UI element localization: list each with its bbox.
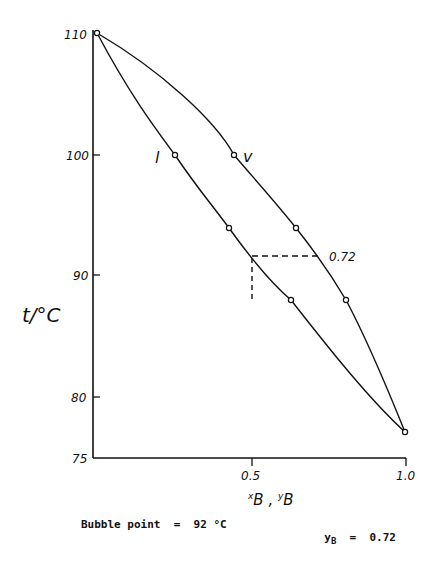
x-axis-b1: B [253,491,263,509]
annotation-072: 0.72 [329,250,356,264]
phase-diagram: 110 100 90 80 75 0.5 1.0 t/°C xB , yB l … [0,0,439,563]
marker-vapour-94 [293,225,298,230]
marker-start [94,30,99,35]
marker-vapour-100 [231,152,236,157]
marker-liquid-88 [288,297,293,302]
x-axis-title: xB , yB [247,491,294,509]
x-tick-label-10: 1.0 [396,469,415,483]
marker-liquid-100 [172,152,177,157]
data-markers [94,30,407,434]
caption-bubble-point: Bubble point = 92 °C [81,518,227,531]
x-axis-b2: B [283,491,293,509]
caption-yb-label: y [324,531,331,544]
y-axis-title: t/°C [22,303,61,327]
liquid-curve [97,33,405,432]
caption-yb: yB = 0.72 [311,518,396,546]
x-tick-label-05: 0.5 [241,469,260,483]
y-tick-label-75: 75 [72,452,87,466]
liquid-curve-label: l [155,148,160,167]
y-tick-label-110: 110 [64,28,87,42]
y-tick-label-90: 90 [73,269,89,283]
vapour-curve-label: v [243,147,253,166]
marker-liquid-94 [226,225,231,230]
marker-vapour-88 [343,297,348,302]
y-tick-label-80: 80 [71,391,87,405]
caption-yb-value: = 0.72 [336,531,396,544]
y-tick-label-100: 100 [66,149,89,163]
vapour-curve [97,33,405,432]
marker-end [402,429,407,434]
x-axis-sep: , [264,491,278,509]
